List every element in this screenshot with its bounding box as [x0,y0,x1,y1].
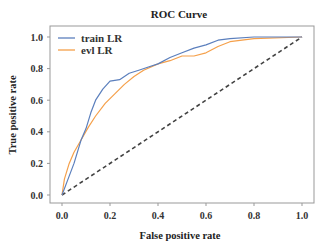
legend-label-evl: evl LR [81,44,114,56]
y-tick-label: 0.8 [31,63,44,74]
series-lines [62,37,302,195]
x-tick-label: 0.2 [104,210,117,221]
chart-title: ROC Curve [151,8,208,20]
y-axis-ticks: 0.00.20.40.60.81.0 [31,32,51,201]
y-tick-label: 1.0 [31,32,44,43]
x-tick-label: 0.8 [248,210,261,221]
x-tick-label: 0.4 [152,210,165,221]
series-line-chance [62,37,302,195]
x-tick-label: 0.6 [200,210,213,221]
legend: train LR evl LR [58,32,123,56]
y-axis-label: True positive rate [7,75,18,154]
x-axis-ticks: 0.00.20.40.60.81.0 [56,203,309,221]
x-axis-label: False positive rate [139,230,220,241]
legend-label-train: train LR [81,32,123,44]
y-tick-label: 0.0 [31,190,44,201]
roc-chart: ROC Curve 0.00.20.40.60.81.0 0.00.20.40.… [0,0,323,251]
y-tick-label: 0.2 [31,158,44,169]
y-tick-label: 0.4 [31,126,44,137]
x-tick-label: 0.0 [56,210,69,221]
y-tick-label: 0.6 [31,95,44,106]
x-tick-label: 1.0 [296,210,309,221]
